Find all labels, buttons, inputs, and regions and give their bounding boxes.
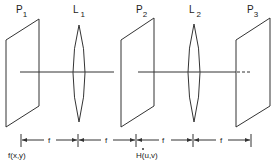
optical-system-diagram: P1 L1 P2 L2 P3 f f f f f(x,y) H(u,v) [0,0,273,164]
plane-p3 [236,18,270,127]
lens-l1 [73,25,85,122]
filter-function-label: H(u,v) [136,151,158,160]
distance-f-2: f [105,136,108,145]
label-l2: L2 [189,4,202,19]
distance-f-3: f [162,136,165,145]
input-function-label: f(x,y) [8,151,26,160]
filter-marker-dot [142,148,144,150]
label-p3: P3 [247,4,259,19]
plane-p1 [6,19,39,127]
dimension-line [21,134,251,147]
distance-f-1: f [48,136,51,145]
lens-l2 [188,24,200,122]
label-p2: P2 [136,4,148,19]
distance-f-4: f [220,136,223,145]
label-p1: P1 [16,4,28,19]
label-l1: L1 [73,4,86,19]
